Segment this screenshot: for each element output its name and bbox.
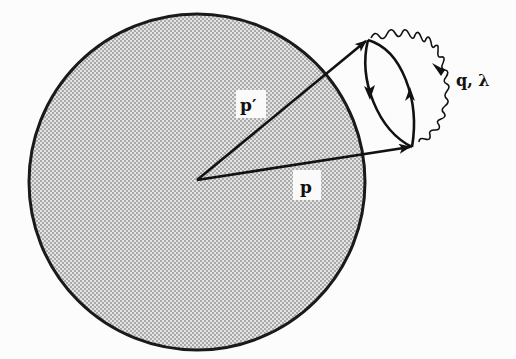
loop-arrow-up-icon — [405, 87, 415, 101]
fermi-sphere-diagram: p′ p q, λ — [0, 0, 516, 359]
label-photon: q, λ — [456, 71, 490, 90]
diagram-canvas: p′ p q, λ — [0, 0, 516, 359]
label-p-prime: p′ — [240, 95, 257, 115]
fermion-loop-left — [365, 40, 412, 147]
label-p: p — [300, 177, 312, 197]
photon-arrow-icon — [432, 63, 445, 76]
